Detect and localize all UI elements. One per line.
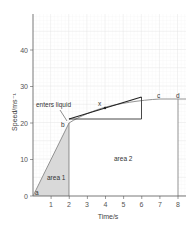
x-tick-label: 7 <box>158 201 162 208</box>
x-tick-label: 6 <box>140 201 144 208</box>
y-tick-label: 20 <box>20 120 28 127</box>
y-tick-label: 40 <box>20 47 28 54</box>
x-ticks <box>51 196 178 199</box>
annotation-b: b <box>61 121 65 128</box>
label-area-1: area 1 <box>47 174 66 181</box>
x-tick-label: 3 <box>85 201 89 208</box>
annotation-a: a <box>35 189 39 196</box>
y-tick-label: 0 <box>24 193 28 200</box>
speed-time-chart: 0 10 20 30 40 1 2 3 4 5 6 7 8 Time/s Spe… <box>0 0 195 228</box>
tangent-point <box>104 107 106 109</box>
x-axis-label: Time/s <box>98 213 119 220</box>
x-tick-label: 5 <box>122 201 126 208</box>
x-tick-label: 2 <box>67 201 71 208</box>
x-tick-label: 8 <box>176 201 180 208</box>
y-tick-label: 30 <box>20 83 28 90</box>
y-axis-label: Speed/ms⁻¹ <box>11 92 19 131</box>
annotation-enters-liquid: enters liquid <box>36 101 71 109</box>
x-tick-label: 4 <box>104 201 108 208</box>
x-tick-label: 1 <box>49 201 53 208</box>
annotation-d: d <box>176 92 180 99</box>
y-tick-label: 10 <box>20 156 28 163</box>
label-area-2: area 2 <box>114 155 133 162</box>
y-ticks <box>30 50 33 196</box>
